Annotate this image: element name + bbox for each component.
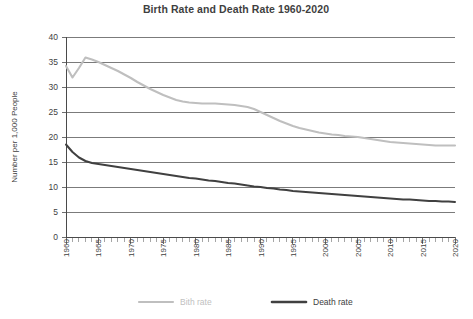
y-tick-label: 20 — [49, 132, 59, 142]
x-tick-label: 1980 — [192, 239, 201, 257]
x-tick-label: 1970 — [127, 239, 136, 257]
y-tick-label: 35 — [49, 57, 59, 67]
y-tick-label: 5 — [53, 207, 58, 217]
x-tick-label: 2005 — [354, 239, 363, 257]
x-tick-label: 2015 — [419, 239, 428, 257]
birth-death-rate-chart: Birth Rate and Death Rate 1960-2020 Numb… — [0, 0, 473, 319]
legend-label-death-rate: Death rate — [313, 297, 353, 307]
x-tick-label: 2010 — [386, 239, 395, 257]
x-tick-label: 2000 — [321, 239, 330, 257]
x-tick-label: 1965 — [94, 239, 103, 257]
chart-background — [0, 0, 473, 319]
x-tick-label: 2020 — [451, 239, 460, 257]
y-tick-label: 25 — [49, 107, 59, 117]
x-tick-label: 1985 — [224, 239, 233, 257]
x-tick-label: 1990 — [257, 239, 266, 257]
y-tick-label: 0 — [53, 232, 58, 242]
chart-title: Birth Rate and Death Rate 1960-2020 — [143, 3, 329, 15]
y-tick-label: 10 — [49, 182, 59, 192]
x-tick-label: 1975 — [159, 239, 168, 257]
y-tick-label: 30 — [49, 82, 59, 92]
y-axis-label: Number per 1,000 People — [10, 91, 19, 183]
y-tick-label: 40 — [49, 32, 59, 42]
y-tick-label: 15 — [49, 157, 59, 167]
x-tick-label: 1995 — [289, 239, 298, 257]
legend-label-birth-rate: Bith rate — [180, 297, 212, 307]
x-tick-label: 1960 — [62, 239, 71, 257]
